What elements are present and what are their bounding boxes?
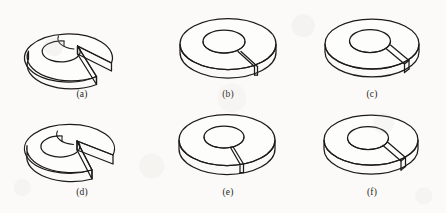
figure-label-e: (e) bbox=[154, 186, 302, 198]
figure-plate: (a) (b) bbox=[0, 0, 446, 213]
figure-panel-c: (c) bbox=[298, 6, 446, 112]
washer-drawing-c bbox=[298, 6, 446, 94]
figure-panel-f: (f) bbox=[298, 104, 446, 210]
figure-label-b: (b) bbox=[154, 88, 302, 100]
figure-panel-e: (e) bbox=[154, 104, 302, 210]
figure-panel-a: (a) bbox=[8, 6, 156, 112]
figure-label-d: (d) bbox=[8, 186, 156, 198]
washer-drawing-a bbox=[8, 6, 156, 94]
figure-panel-b: (b) bbox=[154, 6, 302, 112]
figure-label-c: (c) bbox=[298, 88, 446, 100]
figure-panel-d: (d) bbox=[8, 104, 156, 210]
washer-drawing-f bbox=[298, 104, 446, 192]
washer-drawing-d bbox=[8, 104, 156, 192]
washer-drawing-e bbox=[154, 104, 302, 192]
figure-label-f: (f) bbox=[298, 186, 446, 198]
washer-drawing-b bbox=[154, 6, 302, 94]
figure-label-a: (a) bbox=[8, 88, 156, 100]
